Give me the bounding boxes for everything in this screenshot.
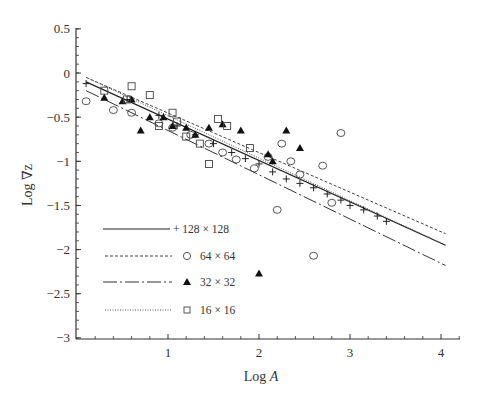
triangle-marker	[282, 126, 290, 133]
circle-marker	[328, 199, 336, 206]
square-marker-icon	[184, 307, 190, 313]
circle-marker	[337, 130, 345, 137]
plus-marker	[296, 180, 303, 187]
legend-item-64: 64 × 64	[105, 250, 235, 262]
fit-line	[86, 91, 445, 266]
plus-marker	[324, 190, 331, 197]
circle-marker	[250, 165, 258, 172]
x-axis-label: Log A	[244, 369, 279, 384]
fit-lines	[86, 77, 445, 265]
y-axis-label: Log ∇z	[20, 164, 35, 206]
circle-marker	[232, 156, 240, 163]
square-marker	[205, 160, 212, 167]
triangle-marker	[182, 124, 190, 131]
triangle-marker	[205, 124, 213, 131]
y-tick-label: −1.5	[46, 198, 70, 213]
circle-marker	[155, 120, 163, 127]
legend-item-128: + 128 × 128	[103, 223, 229, 235]
circle-marker	[278, 140, 286, 147]
circle-marker	[273, 206, 281, 213]
triangle-marker	[100, 94, 108, 101]
x-tick-label: 2	[256, 345, 263, 360]
y-tick-label: −2.5	[46, 286, 70, 301]
circle-marker	[219, 149, 227, 156]
triangle-marker	[219, 120, 227, 127]
x-tick-label: 3	[347, 345, 354, 360]
x-tick-label: 4	[438, 345, 445, 360]
square-marker	[215, 115, 222, 122]
square-marker	[196, 140, 203, 147]
triangle-marker	[237, 126, 245, 133]
fit-line	[86, 77, 445, 245]
y-tick-label: −3	[56, 330, 70, 345]
x-ticks: 1234	[95, 334, 459, 360]
square-marker	[169, 109, 176, 116]
legend: + 128 × 128 64 × 64 32 × 32 16 × 16	[103, 223, 235, 316]
triangle-marker-icon	[183, 278, 191, 285]
y-tick-label: 0	[64, 66, 71, 81]
legend-label: 32 × 32	[200, 276, 235, 288]
y-tick-label: −2	[56, 242, 70, 257]
triangle-marker	[146, 113, 154, 120]
square-marker	[146, 92, 153, 99]
legend-label: + 128 × 128	[173, 223, 229, 235]
plus-marker	[242, 155, 249, 162]
scatter-chart: 0.50−0.5−1−1.5−2−2.5−3 1234 Log A Log ∇z…	[0, 0, 479, 398]
plus-marker	[337, 197, 344, 204]
circle-marker	[82, 98, 90, 105]
circle-marker	[287, 158, 295, 165]
triangle-marker	[137, 126, 145, 133]
triangle-marker	[296, 144, 304, 151]
square-marker	[128, 83, 135, 90]
plus-marker	[283, 175, 290, 182]
triangle-marker	[255, 269, 263, 276]
y-tick-label: −0.5	[46, 110, 70, 125]
data-points	[82, 80, 390, 276]
circle-marker	[109, 107, 117, 114]
legend-label: 64 × 64	[200, 250, 235, 262]
plus-marker	[310, 184, 317, 191]
legend-label: 16 × 16	[200, 304, 235, 316]
x-tick-label: 1	[165, 345, 172, 360]
plus-marker	[269, 168, 276, 175]
triangle-marker	[269, 157, 277, 164]
y-tick-label: 0.5	[54, 21, 70, 36]
circle-marker	[319, 162, 327, 169]
triangle-marker	[264, 150, 272, 157]
circle-marker	[310, 252, 318, 259]
circle-marker-icon	[183, 252, 190, 259]
triangle-marker	[159, 113, 167, 120]
plus-marker	[83, 80, 90, 87]
axes: 0.50−0.5−1−1.5−2−2.5−3 1234	[46, 21, 460, 360]
y-tick-label: −1	[56, 154, 70, 169]
legend-item-16: 16 × 16	[105, 304, 235, 316]
plus-marker	[228, 149, 235, 156]
fit-line	[86, 82, 445, 245]
legend-item-32: 32 × 32	[103, 276, 235, 288]
